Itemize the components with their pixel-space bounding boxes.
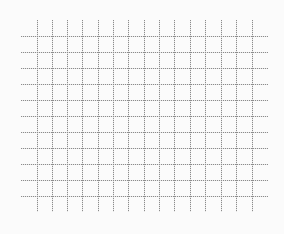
dotted-grid	[0, 0, 284, 234]
grid-canvas	[0, 0, 284, 234]
